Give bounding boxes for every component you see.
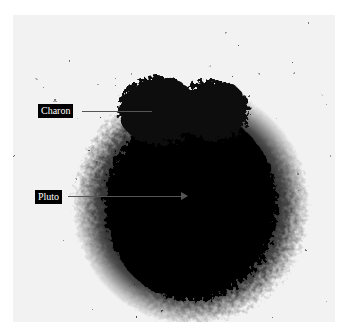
charon-label: Charon — [38, 104, 73, 118]
pluto-arrowhead-icon — [181, 192, 188, 200]
pluto-pointer-line — [68, 196, 183, 197]
charon-pointer-line — [82, 111, 152, 112]
grainy-image-texture — [13, 15, 335, 322]
pluto-charon-photo — [13, 15, 335, 322]
pluto-label: Pluto — [35, 190, 62, 204]
